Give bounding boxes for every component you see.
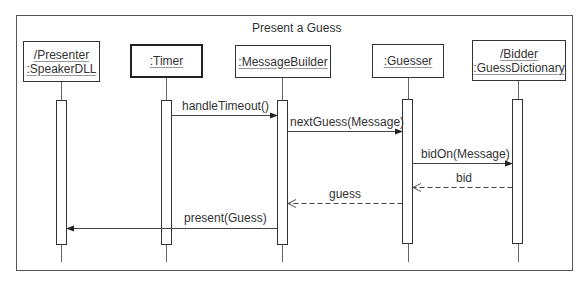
participant-class-label: :SpeakerDLL: [26, 62, 96, 76]
message-label-next-guess: nextGuess(Message): [290, 115, 404, 129]
participant-messagebuilder: :MessageBuilder: [235, 45, 331, 78]
participant-class-label: :Guesser: [384, 54, 433, 68]
message-label-guess: guess: [329, 187, 361, 201]
participant-timer: :Timer: [130, 44, 203, 78]
participant-role-label: /Bidder: [500, 47, 538, 61]
message-label-present: present(Guess): [184, 211, 267, 225]
participant-class-label: :GuessDictionary: [473, 61, 564, 75]
message-label-bid-on: bidOn(Message): [421, 147, 510, 161]
diagram-title: Present a Guess: [252, 21, 341, 35]
participant-guesser: :Guesser: [372, 44, 444, 78]
message-label-bid: bid: [456, 171, 472, 185]
message-arrows: [67, 116, 513, 229]
participant-class-label: :Timer: [150, 54, 184, 68]
message-label-handle-timeout: handleTimeout(): [182, 99, 269, 113]
participant-class-label: :MessageBuilder: [238, 55, 327, 69]
participant-presenter: /Presenter :SpeakerDLL: [23, 41, 100, 82]
participant-role-label: /Presenter: [34, 48, 89, 62]
lifelines: [62, 77, 519, 262]
participant-bidder: /Bidder :GuessDictionary: [472, 40, 566, 81]
